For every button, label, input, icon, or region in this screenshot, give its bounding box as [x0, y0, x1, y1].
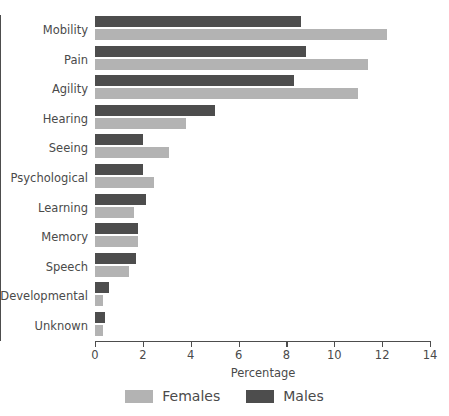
bar-males: [95, 75, 294, 86]
category-label-speech: Speech: [0, 260, 88, 274]
bar-females: [95, 29, 387, 40]
chart-legend: Females Males: [0, 388, 449, 404]
bar-males: [95, 46, 306, 57]
x-tick-label: 14: [423, 348, 438, 362]
x-tick: [191, 341, 192, 347]
category-label-seeing: Seeing: [0, 141, 88, 155]
legend-item-females: Females: [125, 388, 220, 404]
x-tick: [382, 341, 383, 347]
category-label-psychological: Psychological: [0, 171, 88, 185]
x-tick-label: 6: [235, 348, 242, 362]
x-axis-title: Percentage: [95, 366, 431, 380]
category-label-learning: Learning: [0, 201, 88, 215]
bar-females: [95, 147, 169, 158]
x-tick-label: 2: [139, 348, 146, 362]
bar-females: [95, 177, 154, 188]
bar-females: [95, 207, 134, 218]
bar-females: [95, 236, 138, 247]
x-tick-label: 10: [327, 348, 342, 362]
x-tick: [286, 341, 287, 347]
bar-males: [95, 164, 143, 175]
x-tick: [95, 341, 96, 347]
bar-males: [95, 16, 301, 27]
bar-males: [95, 253, 136, 264]
bar-males: [95, 194, 146, 205]
bar-males: [95, 105, 215, 116]
legend-label-females: Females: [162, 388, 220, 404]
legend-swatch-males-icon: [246, 390, 274, 403]
x-tick-label: 0: [91, 348, 98, 362]
category-label-developmental: Developmental: [0, 289, 88, 303]
category-label-agility: Agility: [0, 82, 88, 96]
category-label-mobility: Mobility: [0, 23, 88, 37]
x-tick: [430, 341, 431, 347]
x-tick-label: 8: [283, 348, 290, 362]
bar-males: [95, 312, 105, 323]
bar-females: [95, 325, 103, 336]
category-label-pain: Pain: [0, 53, 88, 67]
category-label-hearing: Hearing: [0, 112, 88, 126]
bar-females: [95, 295, 103, 306]
x-tick: [239, 341, 240, 347]
x-tick: [334, 341, 335, 347]
bar-males: [95, 223, 138, 234]
legend-label-males: Males: [283, 388, 323, 404]
bar-males: [95, 134, 143, 145]
category-label-memory: Memory: [0, 230, 88, 244]
x-tick-label: 4: [187, 348, 194, 362]
x-tick-label: 12: [375, 348, 390, 362]
category-label-unknown: Unknown: [0, 319, 88, 333]
bar-females: [95, 88, 358, 99]
legend-item-males: Males: [246, 388, 323, 404]
bar-females: [95, 118, 186, 129]
x-tick: [143, 341, 144, 347]
bar-females: [95, 59, 368, 70]
bar-chart: 02468101214 MobilityPainAgilityHearingSe…: [0, 0, 449, 416]
legend-swatch-females-icon: [125, 390, 153, 403]
x-axis-line: [95, 341, 431, 342]
bar-males: [95, 282, 109, 293]
bar-females: [95, 266, 129, 277]
